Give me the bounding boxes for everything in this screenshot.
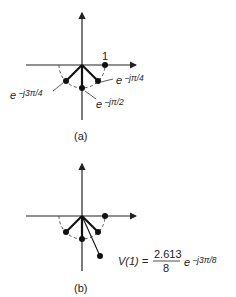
caption-a: (a): [74, 130, 87, 142]
point-3pi4-a: [63, 78, 69, 84]
label-one: 1: [102, 50, 108, 62]
point-pi4-b: [95, 229, 101, 235]
leader-3pi4: [53, 83, 63, 91]
phasor-3pi4-a: [66, 65, 82, 81]
point-v1: [97, 253, 103, 259]
point-pi2-b: [79, 236, 85, 242]
label-e-pi2: e−jπ/2: [96, 97, 124, 110]
eq-denominator: 8: [163, 262, 169, 274]
phasor-pi4-b: [82, 216, 98, 232]
caption-b: (b): [74, 282, 87, 294]
svg-text:V(1) =: V(1) =: [118, 255, 149, 267]
panel-a: 1 e−jπ/4 e−jπ/2 e−j3π/4 (a): [10, 13, 144, 142]
point-pi4-a: [95, 78, 101, 84]
phasor-diagram: 1 e−jπ/4 e−jπ/2 e−j3π/4 (a) V(1) = 2.613…: [0, 0, 236, 297]
label-e-pi4: e−jπ/4: [116, 73, 144, 86]
panel-b: V(1) = 2.613 8 e−j3π/8 (b): [26, 164, 217, 294]
leader-pi4: [101, 79, 113, 82]
eq-numerator: 2.613: [154, 248, 182, 260]
phasor-pi4-a: [82, 65, 98, 81]
point-1-b: [102, 213, 108, 219]
point-3pi4-b: [63, 229, 69, 235]
phasor-v1: [82, 216, 100, 256]
label-e-3pi4: e−j3π/4: [10, 88, 43, 101]
leader-pi2: [85, 91, 96, 99]
phasor-3pi4-b: [66, 216, 82, 232]
point-1-a: [102, 62, 108, 68]
equation-v1: V(1) = 2.613 8 e−j3π/8: [118, 248, 217, 274]
eq-exponential: e−j3π/8: [184, 255, 217, 268]
point-pi2-a: [79, 85, 85, 91]
